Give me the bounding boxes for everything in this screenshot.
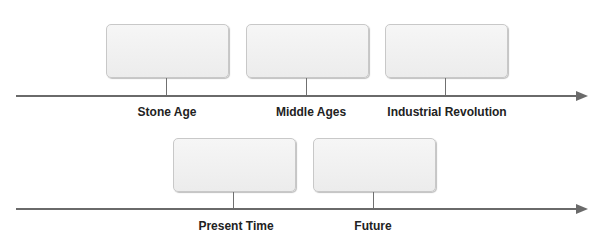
timeline-axis-2 [16,208,578,210]
event-label-stone-age: Stone Age [138,105,197,119]
arrow-head-icon [576,91,588,101]
event-label-middle-ages: Middle Ages [276,105,346,119]
event-label-future: Future [354,219,391,233]
timeline-axis-1 [16,95,578,97]
event-box-industrial-revolution [385,24,508,78]
event-tick-present-time [233,192,234,209]
event-box-stone-age [106,24,229,78]
event-box-future [313,138,436,192]
event-tick-future [373,192,374,209]
arrow-head-icon [576,204,588,214]
event-label-industrial-revolution: Industrial Revolution [387,105,506,119]
event-tick-industrial-revolution [445,78,446,96]
event-label-present-time: Present Time [198,219,273,233]
event-box-middle-ages [246,24,369,78]
event-tick-stone-age [166,78,167,96]
event-tick-middle-ages [306,78,307,96]
event-box-present-time [173,138,296,192]
